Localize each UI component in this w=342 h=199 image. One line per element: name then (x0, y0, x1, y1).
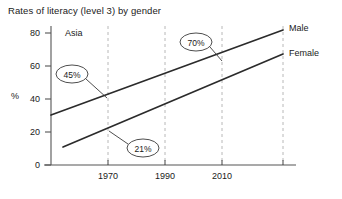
callout-label-21: 21% (128, 144, 158, 154)
ytick-label-0: 0 (18, 160, 40, 170)
ytick-label-80: 80 (18, 28, 40, 38)
xtick-label-1970: 1970 (88, 171, 128, 181)
ytick-label-60: 60 (18, 61, 40, 71)
region-annotation-asia: Asia (65, 28, 83, 38)
data-lines (51, 30, 283, 147)
xtick-label-1990: 1990 (145, 171, 185, 181)
callout-label-45: 45% (57, 70, 87, 80)
leader-70 (210, 47, 222, 61)
ytick-label-40: 40 (18, 94, 40, 104)
leader-45 (86, 79, 107, 98)
series-line-female (63, 54, 283, 147)
x-axis-ticks (108, 160, 283, 165)
xtick-label-2010: 2010 (202, 171, 242, 181)
series-label-female: Female (289, 48, 319, 58)
ytick-label-20: 20 (18, 127, 40, 137)
series-label-male: Male (289, 23, 309, 33)
y-axis-ticks (45, 33, 51, 165)
leader-21 (109, 131, 128, 144)
callout-label-70: 70% (181, 38, 211, 48)
axes (44, 26, 296, 165)
callout-bubbles (56, 33, 212, 157)
literacy-line-chart: Rates of literacy (level 3) by gender (0, 0, 342, 199)
